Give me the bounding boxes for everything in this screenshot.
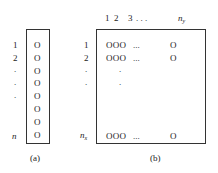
panel-b-caption: (b): [150, 153, 161, 163]
panel-b-rown-ellipsis: ...: [133, 131, 140, 141]
panel-a-cell: O: [34, 104, 41, 114]
panel-a-cell: O: [34, 66, 41, 76]
panel-a-row-label: .: [14, 90, 16, 100]
panel-b-vdot: .: [119, 77, 121, 87]
panel-b-row2-cells: O O O: [106, 53, 125, 63]
panel-b-row-label: 1: [84, 40, 89, 50]
panel-a-cell: O: [34, 91, 41, 101]
panel-b-row-label: .: [85, 77, 87, 87]
panel-a-cell: O: [34, 130, 41, 140]
panel-a-cell: O: [34, 78, 41, 88]
panel-a-row-label: 1: [13, 40, 18, 50]
panel-b-row2-last: O: [170, 53, 177, 63]
panel-a-caption: (a): [30, 153, 40, 163]
panel-a-cell: O: [34, 40, 41, 50]
panel-a-row-label-n: n: [12, 131, 17, 141]
panel-b-row1-cells: O O O: [106, 40, 125, 50]
panel-b-row-label: 2: [84, 53, 89, 63]
panel-b-col-label: 2: [114, 13, 119, 23]
panel-b-row-label-nx: nx: [80, 130, 87, 143]
panel-b-col-label: . . .: [136, 13, 147, 23]
panel-b-col-label-ny: ny: [178, 13, 185, 26]
panel-b-col-label: 1: [105, 13, 110, 23]
panel-b-rown-cells: O O O: [106, 131, 125, 141]
panel-b-col-label: 3: [128, 13, 133, 23]
panel-b-row1-ellipsis: ...: [133, 40, 140, 50]
panel-b-row1-last: O: [170, 40, 177, 50]
panel-b-vdot: .: [119, 64, 121, 74]
panel-a-row-label: .: [14, 77, 16, 87]
panel-a-row-label: .: [14, 64, 16, 74]
panel-a-cell: O: [34, 117, 41, 127]
panel-a-row-label: 2: [13, 53, 18, 63]
panel-a-cell: O: [34, 53, 41, 63]
panel-b-row2-ellipsis: ...: [133, 53, 140, 63]
panel-b-row-label: .: [85, 64, 87, 74]
panel-b-rown-last: O: [170, 131, 177, 141]
